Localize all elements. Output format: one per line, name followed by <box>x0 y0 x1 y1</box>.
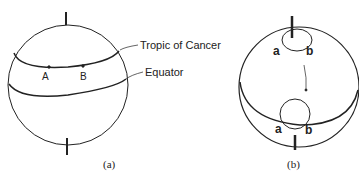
equator-line <box>9 79 126 96</box>
tilted-equator-line <box>240 82 358 125</box>
point-a-marker <box>48 66 50 68</box>
bottom-b-label: b <box>305 123 312 137</box>
globe-b-outline <box>239 27 359 147</box>
equator-leader-line <box>126 72 143 79</box>
caption-b: (b) <box>287 158 300 171</box>
figure-a <box>8 12 143 155</box>
top-b-label: b <box>306 44 313 58</box>
point-b-marker <box>82 65 84 67</box>
top-a-label: a <box>273 44 280 58</box>
motion-arrow-line <box>304 65 306 90</box>
tropic-label: Tropic of Cancer <box>140 39 221 51</box>
point-a-label: A <box>42 71 49 82</box>
point-b-label: B <box>80 71 87 82</box>
caption-a: (a) <box>103 158 116 171</box>
bottom-a-label: a <box>275 122 282 136</box>
globe-a-outline <box>8 25 128 145</box>
motion-arrow-head <box>305 89 307 91</box>
tropic-leader-line <box>120 45 138 50</box>
figure-b <box>239 16 359 150</box>
tropic-of-cancer-line <box>14 51 119 67</box>
equator-label: Equator <box>145 66 184 78</box>
globe-diagrams: Tropic of Cancer Equator A B (a) a b a b… <box>0 0 359 185</box>
